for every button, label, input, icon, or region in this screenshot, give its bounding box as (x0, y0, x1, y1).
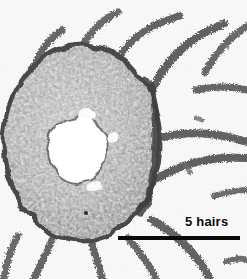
lumen-lobe-lower (89, 181, 103, 191)
scale-bar (118, 236, 240, 240)
micrograph-figure: 5 hairs (0, 0, 247, 279)
hair-6 (196, 87, 247, 90)
hair-15 (226, 259, 247, 262)
lumen-lobe-right (106, 133, 118, 143)
hair-fragment-c (226, 46, 228, 48)
hair-fragment-a (196, 118, 202, 120)
tissue-speck (84, 211, 88, 215)
lumen-lobe-upper (76, 110, 96, 122)
hair-fragment-b (186, 166, 190, 172)
scale-bar-label: 5 hairs (185, 214, 228, 229)
